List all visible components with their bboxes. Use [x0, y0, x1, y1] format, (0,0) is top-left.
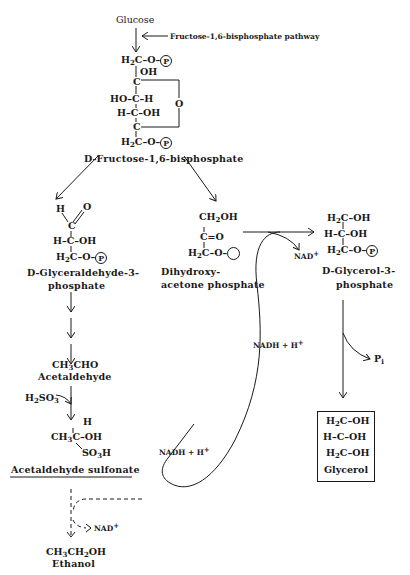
dhap-name-2: acetone phosphate — [161, 279, 265, 290]
nadh-upper: NADH + H+ — [253, 340, 304, 351]
glycerol-c3: H2C–OH — [326, 447, 369, 458]
g3p-c1: H2C–OH — [327, 212, 370, 223]
glucose-label: Glucose — [116, 14, 154, 25]
acetaldehyde-name: Acetaldehyde — [38, 371, 112, 382]
g3p-name-1: D-Glycerol-3- — [322, 265, 395, 276]
gap-c1: C — [68, 220, 76, 231]
dhap-c3: H2C–O– — [188, 247, 240, 260]
g3p-c2: H–C–OH — [324, 228, 367, 239]
sulfonate-h: H — [83, 416, 92, 427]
nad-plus-lower: NAD+ — [94, 523, 119, 534]
fructose-c5: C — [133, 121, 141, 132]
dhap-c2: C=O — [200, 231, 224, 242]
gap-name-1: D-Glyceraldehyde-3- — [27, 267, 139, 278]
gap-name-2: phosphate — [48, 280, 105, 291]
gap-c2: H–C–OH — [53, 235, 96, 246]
ethanol-name: Ethanol — [52, 558, 95, 569]
empty-phosphate-icon — [227, 247, 240, 260]
nadh-lower: NADH + H+ — [159, 447, 210, 458]
phosphate-icon: P — [366, 245, 378, 257]
ring-oxygen: O — [175, 98, 183, 109]
dhap-c1: CH2OH — [199, 211, 238, 222]
acetaldehyde-formula: CH3CHO — [52, 359, 98, 370]
fructose-name: D-Fructose-1,6-bisphosphate — [84, 153, 243, 164]
g3p-c3: H2C–O–P — [327, 244, 378, 257]
fructose-c6: H2C–O–P — [121, 54, 172, 67]
phosphate-icon: P — [160, 137, 172, 149]
h2so3-label: H2SO3 — [25, 392, 59, 403]
sulfonate-name: Acetaldehyde sulfonate — [11, 464, 140, 475]
fructose-c4: H–C–OH — [117, 107, 160, 118]
phosphate-icon: P — [95, 252, 107, 264]
nad-plus-upper: NAD+ — [294, 251, 319, 262]
fructose-c3: HO–C–H — [110, 93, 153, 104]
gap-c3: H2C–O–P — [56, 251, 107, 264]
glycerol-c1: H2C–OH — [326, 415, 369, 426]
glycerol-c2: H–C–OH — [323, 431, 366, 442]
g3p-name-2: phosphate — [336, 279, 393, 290]
phosphate-icon: P — [160, 55, 172, 67]
pathway-note: Fructose-1,6-bisphosphate pathway — [170, 31, 319, 42]
gap-h: H — [56, 203, 65, 214]
pi-label: Pi — [374, 353, 384, 364]
fructose-c2: C — [133, 76, 141, 87]
glycerol-name: Glycerol — [324, 464, 368, 475]
sulfonate-so3h: SO3H — [82, 447, 111, 458]
ethanol-formula: CH3CH2OH — [46, 546, 106, 557]
fructose-c1: H2C–O–P — [121, 136, 172, 149]
fructose-oh: OH — [140, 66, 157, 77]
dhap-name-1: Dihydroxy- — [161, 266, 220, 277]
gap-o: O — [83, 201, 91, 212]
sulfonate-c: CH3C–OH — [51, 431, 102, 442]
